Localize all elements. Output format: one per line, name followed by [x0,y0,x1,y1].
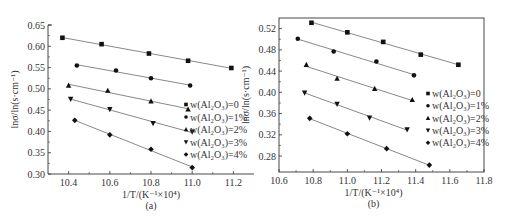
circle-marker-icon [75,63,80,68]
y-tick-label: 0.30 [28,169,46,180]
panel-caption: (b) [368,198,380,210]
y-tick-label: 0.45 [28,105,46,116]
series-4 [72,118,195,171]
legend-item: w(Al₂O₃)=1% [184,112,247,124]
series-3 [302,91,410,133]
series-0 [60,35,234,70]
fit-line [305,93,408,130]
x-tick-label: 11.8 [475,175,492,186]
legend-label: w(Al₂O₃)=4% [190,149,247,161]
square-marker-icon [186,58,191,63]
triangle-up-marker-icon [410,97,415,102]
circle-marker-icon [188,83,193,88]
diamond-marker-icon [427,162,433,168]
series-4 [307,116,432,168]
legend-item: w(Al₂O₃)=4% [184,149,247,161]
x-tick-label: 10.8 [142,177,160,188]
legend-label: w(Al₂O₃)=1% [190,112,247,124]
circle-marker-icon [374,59,379,64]
y-tick-label: 0.44 [259,66,277,77]
triangle-down-marker-icon [367,116,372,121]
square-marker-icon [60,35,65,40]
legend: w(Al₂O₃)=0w(Al₂O₃)=1%w(Al₂O₃)=2%w(Al₂O₃)… [184,99,247,161]
y-axis-title: lnσ/ln(s·cm⁻¹) [9,70,21,128]
y-axis-title: lnσ/ln(s·cm⁻¹) [240,66,252,124]
circle-marker-icon [412,73,417,78]
triangle-down-marker-icon [302,91,307,96]
legend-label: w(Al₂O₃)=2% [432,113,489,125]
x-tick-label: 10.6 [101,177,119,188]
fit-line [77,65,190,85]
triangle-up-marker-icon [372,86,377,91]
legend-item: w(Al₂O₃)=3% [184,137,247,149]
circle-marker-icon [331,49,336,54]
diamond-marker-icon [345,131,351,137]
series-0 [309,20,461,67]
square-marker-icon [147,51,152,56]
fit-line [310,119,430,166]
triangle-down-marker-icon [426,129,430,133]
triangle-down-marker-icon [184,140,188,144]
square-marker-icon [345,30,350,35]
y-tick-label: 0.32 [259,129,277,140]
square-marker-icon [184,103,188,107]
legend-item: w(Al₂O₃)=3% [426,125,489,137]
circle-marker-icon [114,68,119,73]
y-tick-label: 0.65 [28,20,46,31]
square-marker-icon [309,20,314,25]
triangle-up-marker-icon [426,116,430,120]
y-tick-label: 0.52 [259,23,277,34]
series-2 [66,83,191,112]
legend-label: w(Al₂O₃)=0 [190,99,239,111]
square-marker-icon [99,42,104,47]
y-tick-label: 0.35 [28,147,46,158]
y-tick-label: 0.40 [28,126,46,137]
legend-label: w(Al₂O₃)=4% [432,137,489,149]
diamond-marker-icon [107,132,113,138]
y-tick-label: 0.50 [28,83,46,94]
triangle-up-marker-icon [334,76,339,81]
x-tick-label: 11.6 [441,175,458,186]
series-1 [75,63,193,88]
triangle-up-marker-icon [304,62,309,67]
legend-label: w(Al₂O₃)=0 [432,88,481,100]
circle-marker-icon [149,76,154,81]
series-3 [68,97,195,135]
circle-marker-icon [295,36,300,41]
legend-item: w(Al₂O₃)=4% [426,137,489,149]
x-tick-label: 10.6 [270,175,288,186]
legend-label: w(Al₂O₃)=3% [190,137,247,149]
x-tick-label: 11.0 [184,177,201,188]
legend-item: w(Al₂O₃)=2% [184,124,247,136]
series-2 [304,62,415,102]
diamond-marker-icon [184,152,189,157]
series-1 [295,36,416,77]
triangle-up-marker-icon [105,88,110,93]
x-tick-label: 11.0 [339,175,356,186]
legend-label: w(Al₂O₃)=3% [432,125,489,137]
square-marker-icon [229,66,234,71]
legend-item: w(Al₂O₃)=1% [426,100,489,112]
square-marker-icon [426,92,430,96]
x-tick-label: 11.4 [407,175,424,186]
legend-item: w(Al₂O₃)=2% [426,113,489,125]
legend-item: w(Al₂O₃)=0 [184,99,239,111]
fit-line [306,66,412,100]
x-tick-label: 10.8 [304,175,322,186]
x-tick-label: 10.4 [60,177,78,188]
x-tick-label: 11.2 [373,175,390,186]
y-tick-label: 0.36 [259,108,277,119]
y-tick-label: 0.28 [259,151,277,162]
chart-panel-b: 10.610.811.011.211.411.611.80.280.320.36… [240,18,493,210]
square-marker-icon [418,52,423,57]
triangle-up-marker-icon [66,83,71,88]
y-tick-label: 0.48 [259,44,277,55]
triangle-down-marker-icon [150,121,155,126]
figure: 10.410.610.811.011.20.300.350.400.450.50… [0,0,508,216]
diamond-marker-icon [189,165,195,171]
fit-line [71,99,193,133]
diamond-marker-icon [426,140,431,145]
legend-label: w(Al₂O₃)=2% [190,124,247,136]
circle-marker-icon [184,115,188,119]
legend: w(Al₂O₃)=0w(Al₂O₃)=1%w(Al₂O₃)=2%w(Al₂O₃)… [426,88,489,149]
